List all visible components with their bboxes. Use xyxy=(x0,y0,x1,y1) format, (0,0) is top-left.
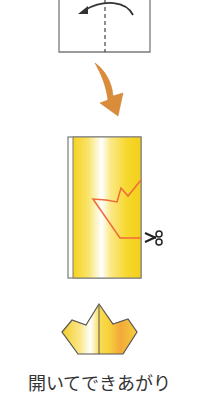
instruction-diagram xyxy=(0,0,198,397)
curved-arrow-head xyxy=(78,6,88,14)
step-fold-paper xyxy=(59,0,150,52)
completion-caption: 開いてできあがり xyxy=(0,369,198,395)
paper-yellow-front xyxy=(73,137,141,278)
scissors-icon xyxy=(145,231,162,245)
step-cut-paper xyxy=(68,137,162,278)
crown-icon xyxy=(62,304,137,354)
curved-arrow-left-icon xyxy=(85,3,133,15)
down-arrow-icon xyxy=(95,63,123,116)
